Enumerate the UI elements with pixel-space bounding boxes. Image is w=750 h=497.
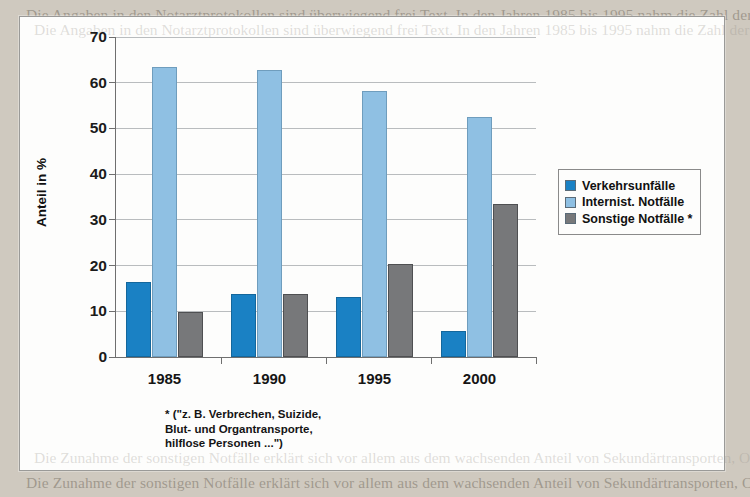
legend-item[interactable]: Internist. Notfälle	[565, 195, 692, 209]
legend-swatch-icon	[565, 197, 576, 208]
y-axis-tick	[109, 37, 116, 38]
ghost-text-bottom: Die Zunahme der sonstigen Notfälle erklä…	[20, 447, 724, 468]
bar[interactable]	[283, 294, 308, 357]
x-axis-tick-label: 1995	[358, 370, 391, 387]
bar[interactable]	[388, 264, 413, 357]
legend-item[interactable]: Sonstige Notfälle *	[565, 212, 692, 226]
bar[interactable]	[493, 204, 518, 357]
bar[interactable]	[336, 297, 361, 357]
y-axis-tick	[109, 174, 116, 175]
legend-label: Verkehrsunfälle	[582, 179, 675, 193]
bar[interactable]	[231, 294, 256, 357]
x-axis-tick-label: 1990	[253, 370, 286, 387]
y-axis-tick-label: 0	[98, 348, 107, 366]
x-axis-tick	[326, 357, 327, 364]
y-axis-tick-label: 60	[90, 74, 107, 92]
y-axis-tick	[109, 311, 116, 312]
bar-group	[221, 37, 326, 357]
bar-group	[431, 37, 536, 357]
footnote-line: hilflose Personen ...")	[165, 436, 321, 451]
y-axis-tick	[109, 357, 116, 358]
y-axis-tick-label: 10	[90, 302, 107, 320]
bar[interactable]	[257, 70, 282, 357]
background-text-bottom: Die Zunahme der sonstigen Notfälle erklä…	[0, 472, 750, 493]
chart-footnote: * ("z. B. Verbrechen, Suizide,Blut- und …	[165, 407, 321, 451]
y-axis-tick-label: 30	[90, 211, 107, 229]
bar[interactable]	[362, 91, 387, 357]
footnote-line: * ("z. B. Verbrechen, Suizide,	[165, 407, 321, 422]
x-axis-tick	[221, 357, 222, 364]
bar[interactable]	[178, 312, 203, 357]
y-axis-tick-label: 70	[90, 28, 107, 46]
footnote-line: Blut- und Organtransporte,	[165, 422, 321, 437]
y-axis-tick-label: 40	[90, 165, 107, 183]
bar-group	[326, 37, 431, 357]
legend-label: Sonstige Notfälle *	[582, 212, 692, 226]
legend-item[interactable]: Verkehrsunfälle	[565, 179, 692, 193]
legend-swatch-icon	[565, 213, 576, 224]
chart-legend: VerkehrsunfälleInternist. NotfälleSonsti…	[558, 169, 701, 235]
bar-group	[116, 37, 221, 357]
bar[interactable]	[126, 282, 151, 357]
legend-label: Internist. Notfälle	[582, 195, 684, 209]
y-axis-tick	[109, 265, 116, 266]
y-axis-title: Anteil in %	[34, 158, 49, 227]
x-axis-tick-label: 2000	[463, 370, 496, 387]
x-axis-tick	[431, 357, 432, 364]
y-axis-tick	[109, 82, 116, 83]
legend-swatch-icon	[565, 180, 576, 191]
chart-card: Die Angaben in den Notarztprotokollen si…	[19, 16, 725, 471]
y-axis-tick	[109, 219, 116, 220]
x-axis-tick	[536, 357, 537, 364]
plot-area: 0102030405060701985199019952000	[115, 37, 536, 358]
y-axis-tick-label: 20	[90, 257, 107, 275]
y-axis-tick-label: 50	[90, 119, 107, 137]
page-background: Die Angaben in den Notarztprotokollen si…	[0, 0, 750, 497]
bar[interactable]	[467, 117, 492, 357]
bar[interactable]	[441, 331, 466, 357]
y-axis-tick	[109, 128, 116, 129]
bar[interactable]	[152, 67, 177, 357]
x-axis-tick-label: 1985	[148, 370, 181, 387]
